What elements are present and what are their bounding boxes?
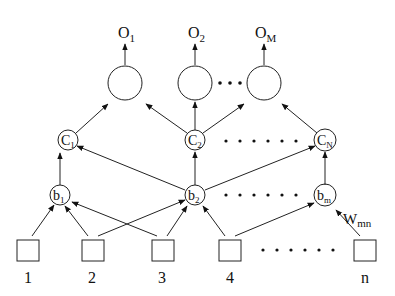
input-node-2 — [82, 240, 104, 261]
output-label-M: OM — [255, 24, 277, 44]
ellipsis-input-row — [261, 248, 334, 251]
input-node-1 — [17, 240, 39, 261]
edge-CN-outM — [282, 104, 317, 133]
edge-b2-CN — [205, 146, 315, 190]
edge-in4-b2 — [203, 206, 225, 236]
edge-C1-out1 — [76, 104, 108, 133]
edge-in3-b1 — [72, 202, 157, 236]
b-label-m: bm — [317, 188, 331, 205]
c-label-N: CN — [317, 133, 333, 150]
input-label-n: n — [361, 269, 369, 286]
input-label-3: 3 — [158, 269, 166, 286]
edge-in4-bm — [235, 203, 314, 236]
edge-in3-b2 — [167, 206, 187, 236]
input-node-3 — [152, 240, 174, 261]
input-label-2: 2 — [88, 269, 96, 286]
b-label-2: b2 — [188, 188, 200, 205]
output-node-M — [247, 66, 281, 100]
input-label-1: 1 — [24, 269, 32, 286]
edge-in1-b1 — [32, 205, 54, 236]
output-label-2: O2 — [188, 24, 205, 44]
b-label-1: b1 — [53, 188, 65, 205]
ellipsis-c-row — [224, 139, 297, 142]
ellipsis-b-row — [224, 193, 297, 196]
edge-C2-out1 — [146, 104, 187, 133]
input-node-n — [354, 240, 376, 261]
neural-network-diagram: O1 O2 OM C1 C2 CN b1 b2 bm Wmn 1 2 3 4 n — [0, 0, 395, 296]
input-node-4 — [219, 240, 241, 261]
edge-in2-b1 — [65, 206, 88, 236]
edge-C2-outM — [203, 104, 244, 133]
output-node-2 — [178, 66, 212, 100]
output-node-1 — [108, 66, 142, 100]
ellipsis-output-row — [218, 81, 242, 85]
c-label-1: C1 — [61, 133, 75, 150]
input-label-4: 4 — [226, 269, 234, 286]
c-label-2: C2 — [188, 133, 202, 150]
edge-b2-C1 — [77, 146, 185, 190]
weight-label-wmn: Wmn — [343, 211, 372, 229]
output-label-1: O1 — [118, 24, 135, 44]
